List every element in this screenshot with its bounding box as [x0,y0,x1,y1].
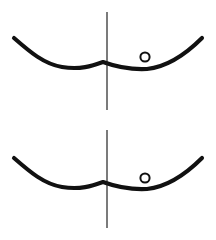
figure-root [0,0,216,240]
panel-top-canvas [0,0,216,120]
particle-circle-top [140,52,149,61]
panel-bottom-canvas [0,120,216,240]
double-well-potential-curve-top [14,38,202,69]
diagram-panel-bottom [0,120,216,240]
double-well-potential-curve-bottom [14,158,202,189]
diagram-panel-top [0,0,216,120]
particle-circle-bottom [140,173,149,182]
